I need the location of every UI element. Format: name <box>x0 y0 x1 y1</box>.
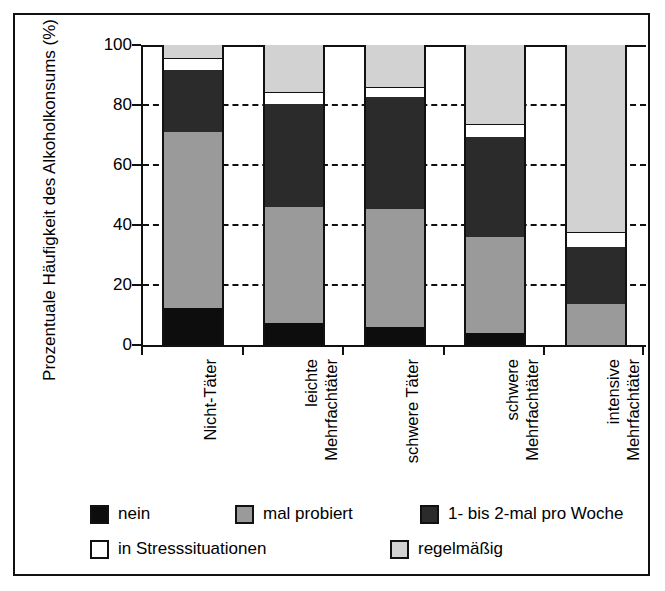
bar-segment-1 <box>164 308 222 346</box>
legend-item[interactable]: 1- bis 2-mal pro Woche <box>420 504 623 524</box>
bar-segment-4 <box>164 58 222 70</box>
bar-segment-4 <box>567 232 625 247</box>
legend-label: mal probiert <box>263 504 353 524</box>
legend-swatch-icon <box>90 540 109 559</box>
bar-segment-2 <box>265 207 323 323</box>
legend-swatch-icon <box>90 505 109 524</box>
y-axis-tick-label: 40 <box>113 215 132 235</box>
x-axis-category-label: schwereMehrfachtäter <box>502 359 524 509</box>
bar-segment-3 <box>265 104 323 208</box>
legend-row: neinmal probiert1- bis 2-mal pro Woche <box>90 503 635 525</box>
category-label-line1: schwere <box>503 359 521 420</box>
stacked-bar[interactable] <box>162 45 224 345</box>
legend-swatch-icon <box>235 505 254 524</box>
y-axis-tick-label: 60 <box>113 155 132 175</box>
stacked-bar[interactable] <box>464 45 526 345</box>
category-label-line2: Mehrfachtäter <box>522 359 542 509</box>
legend-swatch-icon <box>420 505 439 524</box>
y-axis-tick-mark <box>132 224 141 226</box>
y-axis-tick-mark <box>132 44 141 46</box>
axes: 020406080100 Nicht-TäterleichteMehrfacht… <box>141 45 646 345</box>
legend-item[interactable]: mal probiert <box>235 504 353 524</box>
bar-segment-5 <box>466 45 524 124</box>
x-axis-tick-mark <box>543 345 545 355</box>
bar-segment-5 <box>366 45 424 87</box>
y-axis-tick-label: 80 <box>113 95 132 115</box>
bar-segment-2 <box>164 132 222 308</box>
bar-segment-3 <box>366 97 424 209</box>
x-axis-tick-mark <box>342 345 344 355</box>
bar-segment-4 <box>265 92 323 104</box>
y-axis-tick-mark <box>132 164 141 166</box>
bar-segment-1 <box>366 327 424 345</box>
legend-item[interactable]: nein <box>90 504 150 524</box>
category-label-line1: schwere Täter <box>403 359 421 463</box>
bar-segment-2 <box>366 209 424 327</box>
stacked-bar[interactable] <box>565 45 627 345</box>
x-axis-line <box>141 345 646 347</box>
bar-segment-3 <box>466 137 524 237</box>
chart-legend: neinmal probiert1- bis 2-mal pro Wochein… <box>90 503 635 573</box>
y-axis-title-text: Prozentuale Häufigkeit des Alkoholkonsum… <box>39 19 60 381</box>
bar-segment-5 <box>567 45 625 232</box>
x-axis-tick-mark <box>242 345 244 355</box>
y-axis-tick-label: 100 <box>104 35 132 55</box>
bar-segment-3 <box>567 247 625 304</box>
bar-segment-4 <box>466 124 524 137</box>
x-axis-tick-mark <box>141 345 143 355</box>
category-label-line1: intensive <box>604 359 622 424</box>
bar-segment-1 <box>466 333 524 345</box>
legend-label: nein <box>118 504 150 524</box>
x-axis-category-label: intensiveMehrfachtäter <box>603 359 625 509</box>
legend-label: regelmäßig <box>418 539 503 559</box>
y-axis-tick-label: 0 <box>123 335 132 355</box>
x-axis-tick-mark <box>642 345 644 355</box>
legend-row: in Stresssituationenregelmäßig <box>90 538 635 560</box>
chart-figure: Prozentuale Häufigkeit des Alkoholkonsum… <box>13 13 650 576</box>
x-axis-category-label: leichteMehrfachtäter <box>301 359 323 509</box>
bar-segment-4 <box>366 87 424 97</box>
x-axis-category-label: Nicht-Täter <box>200 359 222 509</box>
y-axis-tick-label: 20 <box>113 275 132 295</box>
bar-segment-5 <box>164 45 222 58</box>
bar-segment-3 <box>164 70 222 132</box>
legend-swatch-icon <box>390 540 409 559</box>
category-label-line2: Mehrfachtäter <box>321 359 341 509</box>
plot-area: 020406080100 Nicht-TäterleichteMehrfacht… <box>141 45 646 375</box>
category-label-line2: Mehrfachtäter <box>623 359 643 509</box>
bar-segment-1 <box>265 323 323 346</box>
x-axis-category-label: schwere Täter <box>402 359 424 509</box>
y-axis-tick-mark <box>132 104 141 106</box>
legend-item[interactable]: in Stresssituationen <box>90 539 266 559</box>
category-label-line1: Nicht-Täter <box>201 359 219 441</box>
legend-label: in Stresssituationen <box>118 539 266 559</box>
stacked-bar[interactable] <box>364 45 426 345</box>
legend-label: 1- bis 2-mal pro Woche <box>448 504 623 524</box>
y-axis-tick-mark <box>132 284 141 286</box>
x-axis-tick-mark <box>443 345 445 355</box>
category-label-line1: leichte <box>302 359 320 407</box>
y-axis-title: Prozentuale Häufigkeit des Alkoholkonsum… <box>21 35 77 365</box>
y-axis-tick-mark <box>132 344 141 346</box>
legend-item[interactable]: regelmäßig <box>390 539 503 559</box>
bar-segment-5 <box>265 45 323 92</box>
bar-group <box>143 45 646 345</box>
bar-segment-2 <box>567 304 625 345</box>
stacked-bar[interactable] <box>263 45 325 345</box>
bar-segment-2 <box>466 237 524 333</box>
